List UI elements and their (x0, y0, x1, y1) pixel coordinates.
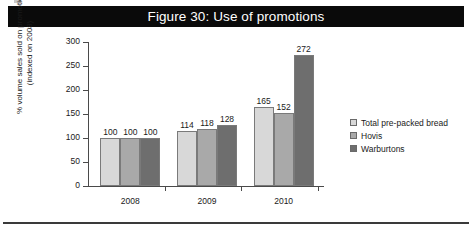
bar[interactable]: 272 (294, 55, 314, 186)
bar-group: 165152272 (254, 42, 314, 186)
y-tick: 100 (83, 138, 88, 139)
y-axis-title-line-2: (indexed on 2008) (25, 21, 36, 86)
bar[interactable]: 100 (140, 138, 160, 186)
y-tick: 150 (83, 114, 88, 115)
bar[interactable]: 114 (177, 131, 197, 186)
x-tick (165, 186, 166, 191)
x-tick (241, 186, 242, 191)
bar[interactable]: 100 (120, 138, 140, 186)
legend-label: Total pre-packed bread (361, 118, 448, 128)
y-tick-label: 150 (66, 108, 80, 118)
bar-group: 100100100 (100, 42, 160, 186)
bar-value-label: 100 (143, 127, 157, 137)
y-tick: 0 (83, 186, 88, 187)
y-tick: 200 (83, 90, 88, 91)
x-axis-label: 2008 (100, 196, 160, 206)
bar[interactable]: 100 (100, 138, 120, 186)
y-tick-label: 100 (66, 132, 80, 142)
bar[interactable]: 128 (217, 125, 237, 186)
legend-swatch-icon (350, 145, 357, 152)
bar-value-label: 272 (297, 44, 311, 54)
chart-area: % volume sales sold on promotion (indexe… (0, 30, 472, 202)
y-tick: 300 (83, 42, 88, 43)
y-tick-label: 300 (66, 36, 80, 46)
y-tick-label: 0 (75, 180, 80, 190)
bar-value-label: 128 (220, 114, 234, 124)
bar-value-label: 152 (277, 102, 291, 112)
chart-legend: Total pre-packed breadHovisWarburtons (350, 116, 448, 155)
plot-area: 050100150200250300 100100100114118128165… (88, 42, 318, 186)
figure-title: Figure 30: Use of promotions (148, 9, 325, 24)
bar[interactable]: 118 (197, 129, 217, 186)
y-tick-label: 250 (66, 60, 80, 70)
legend-label: Hovis (361, 131, 382, 141)
x-axis-label: 2010 (254, 196, 314, 206)
legend-swatch-icon (350, 119, 357, 126)
y-axis-line (88, 42, 89, 186)
y-tick: 50 (83, 162, 88, 163)
legend-label: Warburtons (361, 144, 405, 154)
y-tick-label: 50 (71, 156, 80, 166)
bar[interactable]: 152 (274, 113, 294, 186)
x-axis-line (88, 186, 324, 187)
y-axis-title-line-1: % volume sales sold on promotion (15, 0, 26, 114)
bar-value-label: 100 (123, 127, 137, 137)
legend-item[interactable]: Warburtons (350, 142, 448, 155)
y-tick: 250 (83, 66, 88, 67)
x-tick (318, 186, 319, 191)
legend-item[interactable]: Hovis (350, 129, 448, 142)
x-axis-label: 2009 (177, 196, 237, 206)
legend-swatch-icon (350, 132, 357, 139)
bar-value-label: 165 (257, 96, 271, 106)
bar-value-label: 100 (103, 127, 117, 137)
y-axis-title: % volume sales sold on promotion (indexe… (12, 0, 38, 128)
legend-item[interactable]: Total pre-packed bread (350, 116, 448, 129)
footer-divider (3, 222, 469, 224)
bar[interactable]: 165 (254, 107, 274, 186)
bar-value-label: 114 (180, 120, 194, 130)
y-tick-label: 200 (66, 84, 80, 94)
bar-value-label: 118 (200, 118, 214, 128)
figure-title-bar: Figure 30: Use of promotions (8, 6, 464, 27)
bar-group: 114118128 (177, 42, 237, 186)
